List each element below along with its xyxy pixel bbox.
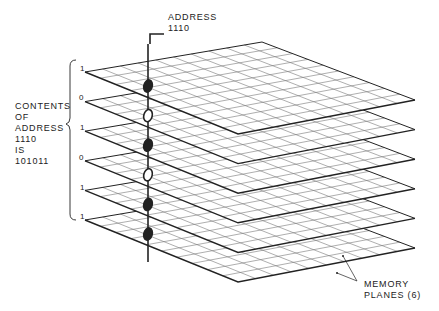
contents-label: CONTENTS OF ADDRESS 1110 IS 101011 [15,101,71,167]
contents-line: OF [15,112,71,123]
memory-label-line1: MEMORY [364,279,409,290]
memory-label-line2: PLANES (6) [364,290,421,301]
bit-label-5: 1 [80,183,84,192]
address-label-line1: ADDRESS [168,12,217,23]
address-label-line2: 1110 [168,23,190,34]
bit-label-3: 1 [80,123,84,132]
contents-line: ADDRESS [15,123,71,134]
bit-label-1: 1 [80,64,84,73]
bit-label-2: 0 [79,93,83,102]
bit-label-4: 0 [79,153,83,162]
contents-line: CONTENTS [15,101,71,112]
bit-label-6: 1 [80,212,84,221]
contents-line: 1110 [15,134,71,145]
contents-line: IS [15,145,71,156]
contents-line: 101011 [15,156,71,167]
